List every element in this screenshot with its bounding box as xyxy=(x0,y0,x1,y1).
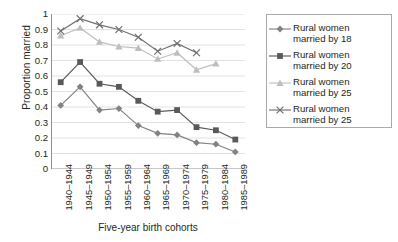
data-point-triangle xyxy=(77,24,84,30)
legend-marker-triangle-icon xyxy=(267,75,293,99)
legend-marker-cross-icon xyxy=(267,102,293,126)
data-point-diamond xyxy=(213,141,220,148)
data-point-square xyxy=(213,127,219,133)
data-point-square xyxy=(77,59,83,65)
data-point-triangle xyxy=(174,49,181,55)
y-tick-label: 0.4 xyxy=(12,102,48,111)
legend: Rural women married by 18Rural women mar… xyxy=(266,14,392,128)
x-tick-label: 1965–1969 xyxy=(161,164,171,218)
data-point-diamond xyxy=(232,149,239,156)
x-tick-label: 1945–1949 xyxy=(84,164,94,218)
y-tick-label: 0.5 xyxy=(12,87,48,96)
series-3 xyxy=(57,24,219,72)
x-tick-label: 1985–1989 xyxy=(239,164,249,218)
legend-item[interactable]: Rural women married by 25 xyxy=(267,75,393,103)
data-point-square xyxy=(232,137,238,143)
x-tick-label: 1960–1964 xyxy=(142,164,152,218)
series-1 xyxy=(57,83,238,155)
data-point-diamond xyxy=(154,130,161,137)
data-point-square xyxy=(194,124,200,130)
data-point-square xyxy=(135,98,141,104)
legend-label: Rural women married by 18 xyxy=(293,21,352,45)
x-axis-title: Five-year birth cohorts xyxy=(51,222,245,233)
x-tick-label: 1940–1944 xyxy=(64,164,74,218)
series-line xyxy=(61,62,236,140)
y-tick-label: 0.1 xyxy=(12,149,48,158)
data-point-diamond xyxy=(193,139,200,146)
plot-area xyxy=(51,14,245,169)
series-4 xyxy=(57,15,200,56)
legend-item[interactable]: Rural women married by 18 xyxy=(267,21,393,49)
data-point-square xyxy=(155,109,161,115)
y-tick-label: 0.6 xyxy=(12,71,48,80)
y-tick-label: 0.7 xyxy=(12,56,48,65)
y-tick-label: 0 xyxy=(12,164,48,173)
x-tick-label: 1955–1959 xyxy=(123,164,133,218)
x-tick-label: 1970–1974 xyxy=(181,164,191,218)
legend-label: Rural women married by 25 xyxy=(293,102,352,126)
y-tick-label: 0.9 xyxy=(12,25,48,34)
legend-label: Rural women married by 25 xyxy=(293,75,352,99)
data-point-square xyxy=(97,81,103,87)
y-tick-label: 0.3 xyxy=(12,118,48,127)
x-tick-label: 1975–1979 xyxy=(200,164,210,218)
data-point-triangle xyxy=(212,60,219,66)
legend-item[interactable]: Rural women married by 20 xyxy=(267,48,393,76)
legend-marker-diamond-icon xyxy=(267,21,293,45)
x-tick-label: 1950–1954 xyxy=(103,164,113,218)
data-point-diamond xyxy=(174,132,181,139)
data-point-diamond xyxy=(277,26,284,33)
chart-figure: Proportion married 00.10.20.30.40.50.60.… xyxy=(0,0,398,242)
data-point-square xyxy=(58,79,64,85)
y-tick-label: 1 xyxy=(12,9,48,18)
x-axis-tick-labels: 1940–19441945–19491950–19541955–19591960… xyxy=(51,171,245,219)
legend-marker-square-icon xyxy=(267,48,293,72)
data-point-square xyxy=(277,53,283,59)
series-line xyxy=(61,87,236,152)
legend-item[interactable]: Rural women married by 25 xyxy=(267,102,393,130)
data-point-square xyxy=(116,84,122,90)
plot-svg xyxy=(51,14,245,169)
data-point-square xyxy=(174,107,180,113)
x-tick-label: 1980–1984 xyxy=(220,164,230,218)
y-tick-label: 0.2 xyxy=(12,133,48,142)
legend-label: Rural women married by 20 xyxy=(293,48,352,72)
y-axis-tick-labels: 00.10.20.30.40.50.60.70.80.91 xyxy=(12,14,48,169)
data-point-triangle xyxy=(96,38,103,44)
y-tick-label: 0.8 xyxy=(12,40,48,49)
